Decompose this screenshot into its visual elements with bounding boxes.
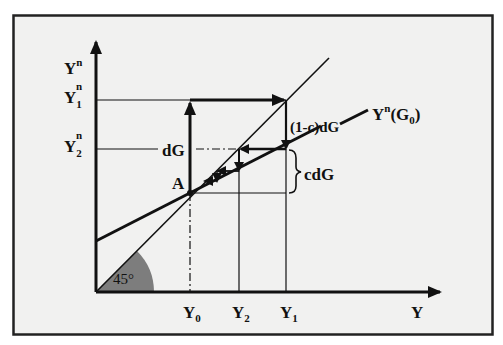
frame <box>14 16 493 335</box>
angle-45-label: 45° <box>113 271 134 287</box>
point-a-label: A <box>172 174 185 193</box>
point-a <box>187 190 193 196</box>
one-minus-c-dG-label: (1-c)dG <box>290 119 339 136</box>
y1n-sup: n <box>76 80 82 92</box>
x-axis-label: Y <box>411 303 423 322</box>
cdG-label: cdG <box>304 165 334 184</box>
y2n-sup: n <box>76 129 82 141</box>
dG-label: dG <box>162 141 185 160</box>
diagram-figure: 45° A dG (1-c)dG cdG Yn(G0) Yn Y1 n Y2 n… <box>0 0 503 345</box>
